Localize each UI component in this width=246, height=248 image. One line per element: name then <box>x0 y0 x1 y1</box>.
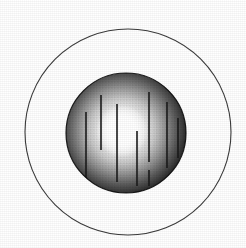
sphere-diagram <box>0 0 246 248</box>
figure-canvas: Illuminated sphere with vertical streak … <box>0 0 246 248</box>
bright-core <box>96 105 148 157</box>
